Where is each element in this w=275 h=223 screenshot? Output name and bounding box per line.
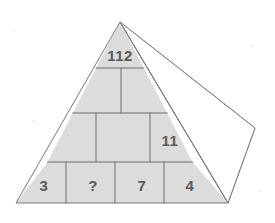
cell-label-base-2: ? <box>88 178 98 193</box>
puzzle-figure: 112 11 3 ? 7 4 <box>0 0 275 223</box>
cell-label-r3c3: 11 <box>162 133 179 148</box>
cell-label-base-4: 4 <box>186 178 195 193</box>
cell-label-base-3: 7 <box>138 178 147 193</box>
cell-label-apex: 112 <box>107 48 133 63</box>
cell-label-base-1: 3 <box>40 178 49 193</box>
